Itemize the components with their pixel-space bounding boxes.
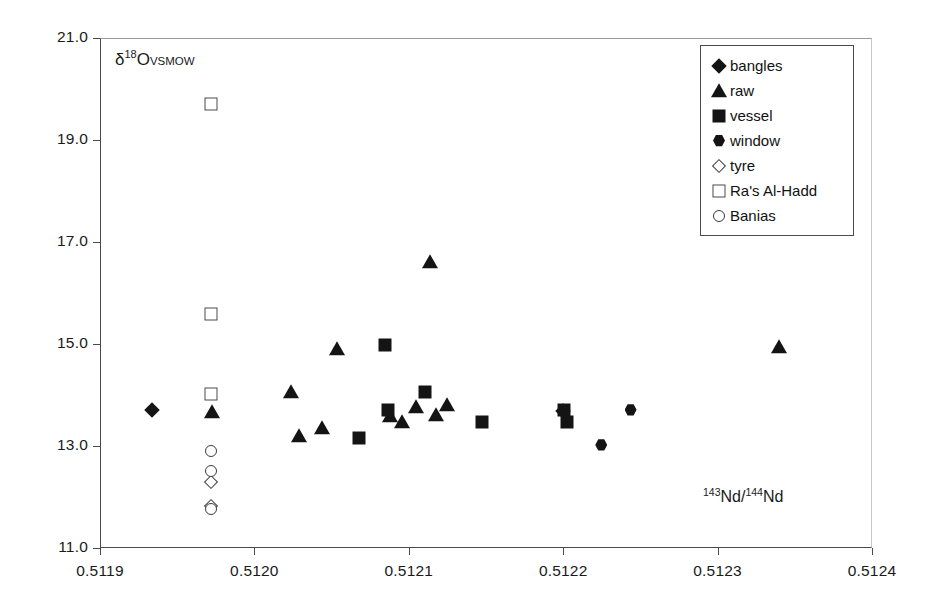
y-tick-mark <box>93 344 100 345</box>
y-tick-mark <box>93 242 100 243</box>
data-point-raw <box>329 341 345 355</box>
data-point-banias <box>205 465 217 477</box>
y-tick-label: 21.0 <box>14 28 88 46</box>
data-point-raw <box>283 385 299 399</box>
scatter-plot-figure: 11.013.015.017.019.021.0 0.51190.51200.5… <box>0 0 926 610</box>
legend-label: bangles <box>730 57 783 74</box>
data-point-banias <box>205 445 217 457</box>
legend-item-ra-s-al-hadd[interactable]: Ra's Al-Hadd <box>710 178 845 203</box>
y-tick-mark <box>93 548 100 549</box>
data-point-raw <box>771 339 787 353</box>
data-point-vessel <box>561 415 574 428</box>
data-point-raw <box>291 428 307 442</box>
x-tick-label: 0.5124 <box>827 562 917 580</box>
data-point-bangles <box>144 402 160 418</box>
data-point-ra-s-al-hadd <box>204 98 217 111</box>
x-tick-mark <box>254 548 255 555</box>
x-tick-label: 0.5123 <box>673 562 763 580</box>
data-point-raw <box>314 420 330 434</box>
legend-symbol-open-square-icon <box>710 182 730 200</box>
x-axis-title-superscript-144: 144 <box>745 486 763 498</box>
marker-open-square <box>713 184 726 197</box>
data-point-raw <box>439 397 455 411</box>
y-tick-mark <box>93 446 100 447</box>
y-tick-label: 15.0 <box>14 334 88 352</box>
data-point-ra-s-al-hadd <box>204 387 217 400</box>
marker-filled-hexagon <box>713 135 725 147</box>
data-point-window <box>595 439 607 451</box>
data-point-raw <box>408 400 424 414</box>
marker-filled-triangle <box>711 83 727 97</box>
x-tick-mark <box>718 548 719 555</box>
y-tick-label: 17.0 <box>14 232 88 250</box>
y-axis-title-superscript: 18 <box>124 48 136 60</box>
legend-item-banias[interactable]: Banias <box>710 203 845 228</box>
legend-item-vessel[interactable]: vessel <box>710 103 845 128</box>
x-tick-label: 0.5122 <box>518 562 608 580</box>
x-tick-label: 0.5119 <box>55 562 145 580</box>
legend-symbol-filled-triangle-icon <box>710 82 730 100</box>
legend-item-window[interactable]: window <box>710 128 845 153</box>
legend-symbol-filled-hexagon-icon <box>710 132 730 150</box>
y-tick-label: 11.0 <box>14 538 88 556</box>
legend-item-bangles[interactable]: bangles <box>710 53 845 78</box>
x-axis-title-nd-slash: Nd/ <box>721 488 746 505</box>
x-tick-label: 0.5120 <box>209 562 299 580</box>
data-point-vessel <box>379 339 392 352</box>
legend-item-tyre[interactable]: tyre <box>710 153 845 178</box>
data-point-raw <box>394 414 410 428</box>
data-point-raw <box>204 405 220 419</box>
data-point-vessel <box>382 403 395 416</box>
marker-open-circle <box>713 210 725 222</box>
legend-symbol-open-circle-icon <box>710 207 730 225</box>
x-tick-mark <box>100 548 101 555</box>
x-axis-title: 143Nd/144Nd <box>703 486 783 506</box>
x-tick-label: 0.5121 <box>364 562 454 580</box>
marker-open-diamond <box>712 158 726 172</box>
data-point-window <box>625 404 637 416</box>
y-axis-title-element: O <box>137 50 150 69</box>
x-tick-mark <box>409 548 410 555</box>
y-tick-label: 19.0 <box>14 130 88 148</box>
data-point-vessel <box>476 416 489 429</box>
data-point-vessel <box>419 385 432 398</box>
data-point-raw <box>422 255 438 269</box>
legend-symbol-filled-diamond-icon <box>710 57 730 75</box>
y-tick-label: 13.0 <box>14 436 88 454</box>
x-axis-title-superscript-143: 143 <box>703 486 721 498</box>
x-axis-title-nd: Nd <box>763 488 783 505</box>
marker-filled-square <box>713 109 726 122</box>
data-point-banias <box>205 503 217 515</box>
legend-label: Banias <box>730 207 776 224</box>
legend-label: tyre <box>730 157 755 174</box>
legend-symbol-open-diamond-icon <box>710 157 730 175</box>
marker-filled-diamond <box>711 58 727 74</box>
legend-label: Ra's Al-Hadd <box>730 182 817 199</box>
y-tick-mark <box>93 140 100 141</box>
legend-label: vessel <box>730 107 773 124</box>
data-point-vessel <box>352 431 365 444</box>
y-axis-title-subscript: VSMOW <box>150 55 195 67</box>
x-tick-mark <box>872 548 873 555</box>
y-axis-title: δ18OVSMOW <box>115 48 195 70</box>
legend-item-raw[interactable]: raw <box>710 78 845 103</box>
legend-symbol-filled-square-icon <box>710 107 730 125</box>
y-tick-mark <box>93 38 100 39</box>
legend-label: raw <box>730 82 754 99</box>
legend: banglesrawvesselwindowtyreRa's Al-HaddBa… <box>700 45 854 236</box>
x-tick-mark <box>563 548 564 555</box>
data-point-ra-s-al-hadd <box>204 308 217 321</box>
legend-label: window <box>730 132 780 149</box>
